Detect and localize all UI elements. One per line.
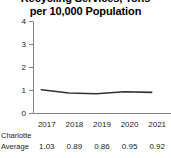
chart-title: Recycling Services, Tons per 10,000 Popu… <box>0 0 171 18</box>
table-cell-2017: 1.03 <box>33 141 61 152</box>
data-value-table: Charlotte Average 1.03 0.89 0.86 0.95 0.… <box>0 130 171 158</box>
table-row: 1.03 0.89 0.86 0.95 0.92 <box>33 141 171 152</box>
y-tick-label-2: 2 <box>22 63 27 72</box>
plot-area: 4 3 2 1 0 <box>0 18 171 118</box>
table-cell-2018: 0.89 <box>61 141 89 152</box>
x-tick-label-2018: 2018 <box>61 119 89 130</box>
y-tick-label-0: 0 <box>22 109 27 118</box>
table-row-label-line-1: Charlotte <box>1 130 33 141</box>
plot-svg: 4 3 2 1 0 <box>0 18 171 118</box>
x-tick-label-2019: 2019 <box>88 119 116 130</box>
table-cell-2019: 0.86 <box>88 141 116 152</box>
y-tick-label-1: 1 <box>22 86 27 95</box>
y-tick-label-3: 3 <box>22 40 27 49</box>
x-tick-label-2020: 2020 <box>116 119 144 130</box>
recycling-services-chart: Recycling Services, Tons per 10,000 Popu… <box>0 0 171 158</box>
data-line-charlotte-average <box>41 90 151 94</box>
x-axis-tick-labels: 2017 2018 2019 2020 2021 <box>33 119 171 130</box>
chart-title-line-2: per 10,000 Population <box>0 5 171 18</box>
table-cell-2021: 0.92 <box>143 141 171 152</box>
y-tick-label-4: 4 <box>22 18 27 26</box>
x-tick-label-2021: 2021 <box>143 119 171 130</box>
x-tick-label-2017: 2017 <box>33 119 61 130</box>
table-row-label-line-2: Average <box>1 141 33 152</box>
table-row-label: Charlotte Average <box>1 130 33 152</box>
y-axis-ticks <box>29 22 33 114</box>
y-axis-tick-labels: 4 3 2 1 0 <box>22 18 27 118</box>
table-cell-2020: 0.95 <box>116 141 144 152</box>
